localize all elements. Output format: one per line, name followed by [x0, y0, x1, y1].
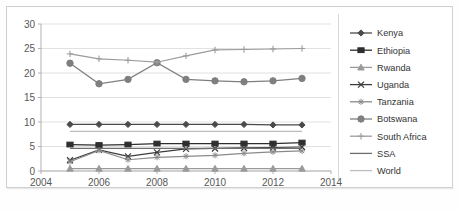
series-marker — [299, 122, 305, 128]
legend-item-tanzania[interactable]: Tanzania — [350, 97, 415, 107]
x-tick-label: 2012 — [262, 177, 285, 188]
x-tick-label: 2014 — [320, 177, 343, 188]
legend-item-label: Ethiopia — [377, 46, 411, 56]
series-marker — [67, 60, 73, 66]
y-tick-label: 5 — [29, 141, 35, 152]
legend-item-rwanda[interactable]: Rwanda — [350, 63, 412, 73]
legend-swatch-marker — [358, 30, 364, 36]
series-marker — [270, 78, 276, 84]
line-chart: 051015202530 200420062008201020122014 Ke… — [0, 0, 460, 211]
series-marker — [241, 79, 247, 85]
legend-item-south-africa[interactable]: South Africa — [350, 132, 427, 142]
y-tick-label: 10 — [24, 117, 36, 128]
series-marker — [183, 76, 189, 82]
y-tick-label: 30 — [24, 19, 36, 30]
chart-screenshot: 051015202530 200420062008201020122014 Ke… — [0, 0, 460, 211]
legend-swatch-marker — [358, 48, 364, 53]
y-tick-label: 0 — [29, 166, 35, 177]
y-axis-ticks: 051015202530 — [24, 19, 41, 177]
series-marker — [212, 141, 218, 146]
series-marker — [125, 76, 131, 82]
y-tick-label: 15 — [24, 92, 36, 103]
legend-item-ssa[interactable]: SSA — [350, 149, 396, 159]
series-marker — [96, 143, 102, 148]
plot-area: 051015202530 200420062008201020122014 Ke… — [0, 0, 460, 211]
x-tick-label: 2010 — [204, 177, 227, 188]
y-tick-label: 25 — [24, 43, 36, 54]
series-marker — [299, 75, 305, 81]
series-tanzania — [67, 147, 305, 164]
x-tick-label: 2008 — [146, 177, 169, 188]
series-marker — [154, 141, 160, 146]
legend: KenyaEthiopiaRwandaUgandaTanzaniaBotswan… — [350, 28, 427, 176]
legend-item-ethiopia[interactable]: Ethiopia — [350, 46, 411, 56]
legend-item-label: Kenya — [377, 28, 404, 38]
series-marker — [67, 142, 73, 147]
x-axis-ticks: 200420062008201020122014 — [30, 171, 343, 188]
legend-item-label: World — [377, 166, 401, 176]
data-series-group — [67, 45, 305, 171]
series-marker — [96, 81, 102, 87]
legend-item-botswana[interactable]: Botswana — [350, 114, 418, 124]
series-rwanda — [67, 165, 305, 171]
legend-swatch-marker — [358, 116, 364, 122]
series-marker — [270, 122, 276, 128]
series-marker — [212, 78, 218, 84]
x-tick-label: 2006 — [88, 177, 111, 188]
legend-item-label: SSA — [377, 149, 396, 159]
legend-item-kenya[interactable]: Kenya — [350, 28, 404, 38]
y-tick-label: 20 — [24, 68, 36, 79]
legend-item-world[interactable]: World — [350, 166, 401, 176]
legend-item-label: Rwanda — [377, 63, 412, 73]
legend-item-label: Botswana — [377, 114, 418, 124]
legend-item-label: South Africa — [377, 132, 427, 142]
x-tick-label: 2004 — [30, 177, 53, 188]
legend-item-label: Tanzania — [377, 97, 415, 107]
legend-item-uganda[interactable]: Uganda — [350, 80, 410, 90]
legend-item-label: Uganda — [377, 80, 410, 90]
series-marker — [125, 142, 131, 147]
series-marker — [183, 141, 189, 146]
